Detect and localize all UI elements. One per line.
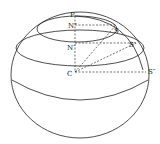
label-N-prime: N′: [67, 44, 75, 52]
upper-small-circle: [37, 16, 117, 42]
sphere-diagram: P N″ N′ C S S′ S″: [0, 0, 160, 144]
equator-arc: [12, 80, 148, 100]
sphere-figure: P N″ N′ C S S′ S″: [0, 0, 160, 144]
label-N-double-prime: N″: [68, 22, 77, 30]
label-P: P: [70, 11, 75, 19]
line-C-S1: [75, 43, 136, 72]
label-S: S: [114, 27, 119, 35]
line-C-S: [75, 25, 116, 72]
sphere-outline: [11, 12, 149, 138]
label-C: C: [67, 70, 72, 78]
label-S-double-prime: S″: [148, 68, 156, 76]
label-S-prime: S′: [129, 41, 136, 49]
